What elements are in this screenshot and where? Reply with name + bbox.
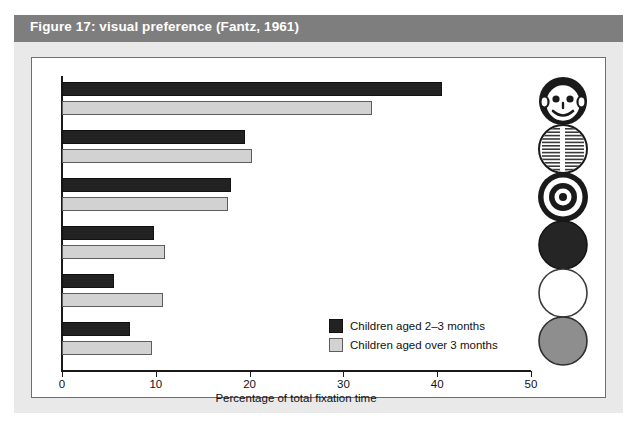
bar [62,197,228,211]
x-axis-title: Percentage of total fixation time [215,392,376,404]
bar [62,245,165,259]
bar [62,149,252,163]
gray-disc-stimulus-icon [536,314,590,368]
x-tick [62,371,63,377]
bullseye-stimulus-icon [536,170,590,224]
x-axis-line [61,370,531,372]
figure-title-bar: Figure 17: visual preference (Fantz, 196… [14,15,623,42]
x-tick [156,371,157,377]
figure-root: Figure 17: visual preference (Fantz, 196… [0,0,637,427]
legend-swatch-light [329,338,343,352]
x-tick-label: 50 [525,378,538,390]
chart-legend: Children aged 2–3 months Children aged o… [329,316,498,354]
x-tick-label: 0 [59,378,65,390]
bar [62,130,245,144]
bar [62,274,114,288]
legend-label: Children aged over 3 months [350,339,498,351]
bar [62,101,372,115]
bar [62,293,163,307]
legend-item: Children aged over 3 months [329,335,498,354]
x-tick [343,371,344,377]
bar [62,226,154,240]
face-stimulus-icon [536,74,590,128]
white-disc-stimulus-icon [536,266,590,320]
bar [62,322,130,336]
legend-swatch-dark [329,319,343,333]
solid-dark-disc-stimulus-icon [536,218,590,272]
figure-title: Figure 17: visual preference (Fantz, 196… [30,19,299,34]
bar [62,82,442,96]
bar [62,341,152,355]
legend-label: Children aged 2–3 months [350,320,485,332]
bar-chart: 01020304050 Percentage of total fixation… [32,58,607,399]
x-tick-label: 40 [431,378,444,390]
figure-panel: Figure 17: visual preference (Fantz, 196… [14,15,623,413]
x-tick [250,371,251,377]
x-tick [437,371,438,377]
x-tick-label: 10 [149,378,162,390]
x-tick-label: 30 [337,378,350,390]
x-tick-label: 20 [243,378,256,390]
x-tick [531,371,532,377]
legend-item: Children aged 2–3 months [329,316,498,335]
plot-card: 01020304050 Percentage of total fixation… [31,57,606,398]
newsprint-stimulus-icon [536,122,590,176]
bar [62,178,231,192]
